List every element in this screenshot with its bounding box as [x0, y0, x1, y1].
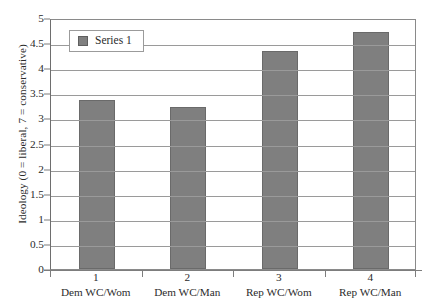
- legend-swatch-series-1: [78, 36, 88, 46]
- x-axis-group: 4Rep WC/Man: [325, 270, 417, 300]
- y-axis-ticklabel: 3.5: [12, 89, 44, 100]
- y-axis-tickmark: [44, 244, 50, 245]
- bar-3: [262, 51, 298, 269]
- x-axis-number: 1: [50, 270, 142, 285]
- bar-4: [353, 32, 389, 269]
- legend-label-series-1: Series 1: [95, 35, 132, 47]
- x-axis-group: 2Dem WC/Man: [142, 270, 234, 300]
- chart-legend: Series 1: [69, 30, 144, 52]
- gridline: [51, 221, 415, 222]
- y-axis-tickmark: [44, 119, 50, 120]
- y-axis-ticklabel: 4: [12, 64, 44, 75]
- bars-layer: [51, 20, 415, 269]
- x-axis-category: Dem WC/Wom: [50, 285, 142, 300]
- gridline: [51, 246, 415, 247]
- y-axis-tickmark: [44, 270, 50, 271]
- y-axis-tickmark: [44, 219, 50, 220]
- x-axis-category: Rep WC/Man: [325, 285, 417, 300]
- x-axis-number: 4: [325, 270, 417, 285]
- gridline: [51, 146, 415, 147]
- plot-area: [50, 19, 416, 270]
- gridline: [51, 95, 415, 96]
- y-axis-tickmark: [44, 44, 50, 45]
- y-axis-ticklabel: 2: [12, 164, 44, 175]
- y-axis-ticklabels: 00.511.522.533.544.55: [12, 19, 44, 270]
- gridline: [51, 196, 415, 197]
- y-axis-tickmark: [44, 19, 50, 20]
- y-axis-ticklabel: 0: [12, 264, 44, 275]
- bar-slot: [234, 20, 326, 269]
- gridline: [51, 171, 415, 172]
- gridline: [51, 70, 415, 71]
- x-axis-group: 3Rep WC/Wom: [233, 270, 325, 300]
- y-axis-ticklabel: 4.5: [12, 38, 44, 49]
- y-axis-ticklabel: 0.5: [12, 239, 44, 250]
- x-axis-category: Dem WC/Man: [142, 285, 234, 300]
- x-axis-number: 2: [142, 270, 234, 285]
- bar-2: [170, 107, 206, 269]
- x-axis-number: 3: [233, 270, 325, 285]
- y-axis-ticklabel: 2.5: [12, 139, 44, 150]
- y-axis-ticklabel: 1.5: [12, 189, 44, 200]
- x-axis-group: 1Dem WC/Wom: [50, 270, 142, 300]
- bar-slot: [51, 20, 143, 269]
- y-axis-ticklabel: 5: [12, 13, 44, 24]
- gridline: [51, 120, 415, 121]
- y-axis-tickmark: [44, 169, 50, 170]
- bar-slot: [143, 20, 235, 269]
- bar-1: [79, 100, 115, 269]
- bar-slot: [326, 20, 418, 269]
- y-axis-tickmark: [44, 69, 50, 70]
- y-axis-tickmark: [44, 194, 50, 195]
- y-axis-ticklabel: 3: [12, 114, 44, 125]
- y-axis-tickmark: [44, 144, 50, 145]
- bar-chart: Ideology (0 = liberal, 7 = conservative)…: [0, 0, 426, 304]
- y-axis-tickmark: [44, 94, 50, 95]
- y-axis-ticklabel: 1: [12, 214, 44, 225]
- x-axis-category: Rep WC/Wom: [233, 285, 325, 300]
- x-axis-labels: 1Dem WC/Wom2Dem WC/Man3Rep WC/Wom4Rep WC…: [50, 270, 416, 304]
